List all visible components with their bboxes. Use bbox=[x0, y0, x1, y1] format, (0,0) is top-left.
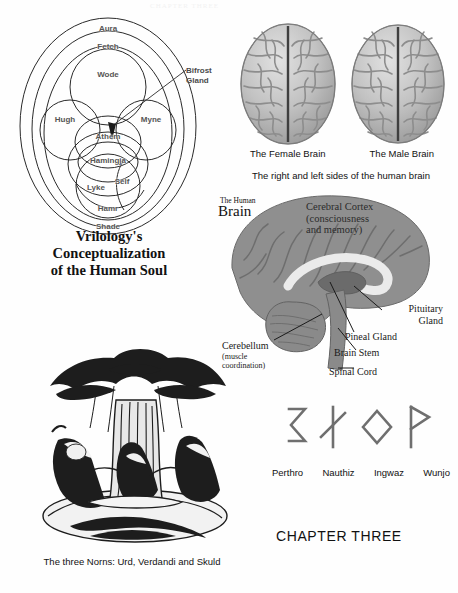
cortex-overlay-line-2: (consciousness bbox=[306, 213, 373, 225]
scan-bleed-text: CHAPTER THREE bbox=[150, 2, 219, 10]
wunjo-rune-glyph bbox=[411, 407, 429, 447]
norns-illustration bbox=[30, 340, 240, 552]
soul-label-hamingja: Hamingja bbox=[90, 156, 126, 165]
bifrost-gland-label: Bifrost Gland bbox=[186, 66, 212, 85]
norns-caption: The three Norns: Urd, Verdandi and Skuld bbox=[18, 556, 246, 567]
soul-diagram-caption: Vrilology's Conceptualization of the Hum… bbox=[14, 228, 204, 279]
male-brain-caption: The Male Brain bbox=[370, 148, 434, 159]
brain-pair-captions: The Female Brain The Male Brain bbox=[228, 148, 456, 159]
runes-svg bbox=[283, 405, 439, 461]
spinal-cord-label: Spinal Cord bbox=[329, 366, 377, 378]
cerebral-cortex-overlay-label: Cerebral Cortex (consciousness and memor… bbox=[306, 201, 373, 236]
cortex-overlay-line-1: Cerebral Cortex bbox=[306, 201, 373, 213]
soul-label-athem: Athem bbox=[96, 132, 121, 141]
female-brain-caption: The Female Brain bbox=[250, 148, 326, 159]
runes-row bbox=[283, 405, 439, 461]
soul-label-lyke: Lyke bbox=[87, 183, 105, 192]
soul-diagram: Aura Fetch Wode Hugh Myne Athem Hamingja… bbox=[8, 14, 208, 229]
pineal-gland-label: Pineal Gland bbox=[345, 331, 397, 343]
brain-pair-subcaption: The right and left sides of the human br… bbox=[224, 170, 458, 181]
norns-svg bbox=[30, 340, 240, 552]
soul-label-myne: Myne bbox=[141, 115, 161, 124]
soul-caption-line-3: of the Human Soul bbox=[14, 262, 204, 279]
soul-label-self: Self bbox=[115, 177, 130, 186]
perthro-rune-glyph bbox=[289, 409, 305, 441]
rune-name-wunjo: Wunjo bbox=[423, 467, 450, 478]
female-brain-illustration bbox=[241, 24, 335, 144]
cerebellum-structure bbox=[266, 302, 326, 352]
soul-label-wode: Wode bbox=[97, 70, 119, 79]
soul-caption-line-1: Vrilology's bbox=[14, 228, 204, 245]
rune-name-row: Perthro Nauthiz Ingwaz Wunjo bbox=[272, 467, 450, 478]
soul-label-hamr: Hamr bbox=[98, 204, 118, 213]
rune-name-ingwaz: Ingwaz bbox=[374, 467, 404, 478]
pituitary-label-line-2: Gland bbox=[373, 315, 443, 327]
rune-name-nauthiz: Nauthiz bbox=[322, 467, 354, 478]
page-canvas: CHAPTER THREE bbox=[0, 0, 458, 593]
soul-caption-line-2: Conceptualization bbox=[14, 245, 204, 262]
bifrost-line-1: Bifrost bbox=[186, 66, 212, 75]
chapter-title: CHAPTER THREE bbox=[276, 528, 402, 544]
rune-name-perthro: Perthro bbox=[272, 467, 303, 478]
yggdrasil-canopy bbox=[50, 349, 226, 400]
brain-pair-svg bbox=[232, 20, 456, 148]
pituitary-gland-label: Pituitary Gland bbox=[373, 303, 443, 326]
pituitary-label-line-1: Pituitary bbox=[373, 303, 443, 315]
human-brain-title-big: Brain bbox=[218, 203, 251, 220]
brain-pair-figure bbox=[232, 20, 456, 145]
male-brain-illustration bbox=[352, 25, 444, 143]
soul-label-aura: Aura bbox=[99, 24, 117, 33]
brain-stem-label: Brain Stem bbox=[334, 347, 379, 359]
cortex-overlay-line-3: and memory) bbox=[306, 224, 373, 236]
soul-label-fetch: Fetch bbox=[97, 42, 118, 51]
bifrost-line-2: Gland bbox=[186, 76, 209, 85]
ingwaz-rune-glyph bbox=[363, 411, 391, 443]
nauthiz-rune-glyph bbox=[321, 407, 345, 447]
soul-label-hugh: Hugh bbox=[55, 115, 75, 124]
